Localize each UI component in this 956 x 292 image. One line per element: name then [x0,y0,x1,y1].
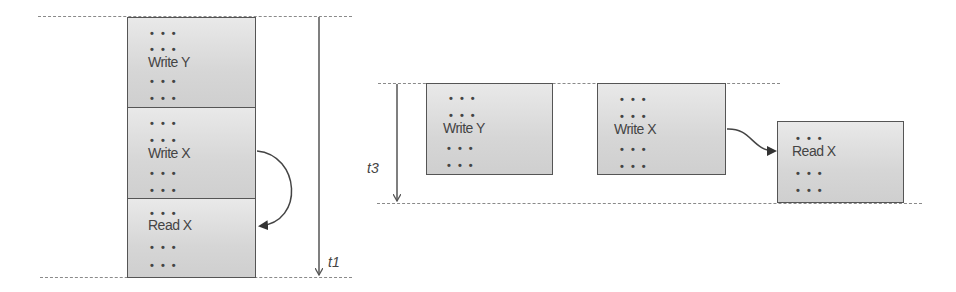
connectors-layer [0,0,956,292]
left-dependency-arrow [257,151,292,226]
right-dependency-arrow [727,129,775,151]
